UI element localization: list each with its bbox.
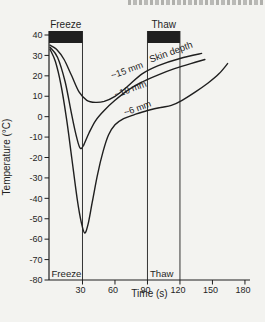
x-tick-label: 120 xyxy=(170,285,185,295)
y-tick-label: -70 xyxy=(29,255,42,265)
x-tick-label: 180 xyxy=(235,285,250,295)
thaw-period-bar xyxy=(147,31,179,43)
x-tick-label: 150 xyxy=(203,285,218,295)
y-tick-label: -10 xyxy=(29,132,42,142)
temperature-time-chart: 403020100-10-20-30-40-50-60-70-803060901… xyxy=(0,0,265,322)
x-tick-label: 60 xyxy=(108,285,118,295)
y-tick-label: -40 xyxy=(29,194,42,204)
thaw-bottom-label: Thaw xyxy=(150,268,174,279)
curve-label-15-mm: ~15 mm xyxy=(110,60,145,81)
y-axis-title: Temperature (°C) xyxy=(1,119,12,196)
x-tick-label: 30 xyxy=(75,285,85,295)
y-tick-label: 20 xyxy=(32,71,42,81)
y-tick-label: -80 xyxy=(29,275,42,285)
y-tick-label: 40 xyxy=(32,30,42,40)
scanned-figure-page: 403020100-10-20-30-40-50-60-70-803060901… xyxy=(0,0,265,322)
freeze-period-bar xyxy=(49,31,82,43)
y-tick-label: -60 xyxy=(29,234,42,244)
freeze-top-label: Freeze xyxy=(50,19,82,30)
thaw-top-label: Thaw xyxy=(151,19,176,30)
freeze-bottom-label: Freeze xyxy=(52,268,82,279)
curve-10-mm xyxy=(50,47,205,148)
y-tick-label: 0 xyxy=(37,112,42,122)
y-tick-label: 30 xyxy=(32,51,42,61)
y-tick-label: -50 xyxy=(29,214,42,224)
y-tick-label: 10 xyxy=(32,91,42,101)
y-tick-label: -30 xyxy=(29,173,42,183)
x-axis-title: Time (s) xyxy=(131,288,167,299)
curve-label-10-mm: ~10 mm xyxy=(113,79,148,100)
curve-label-6-mm: ~6 mm xyxy=(122,99,152,118)
y-tick-label: -20 xyxy=(29,153,42,163)
